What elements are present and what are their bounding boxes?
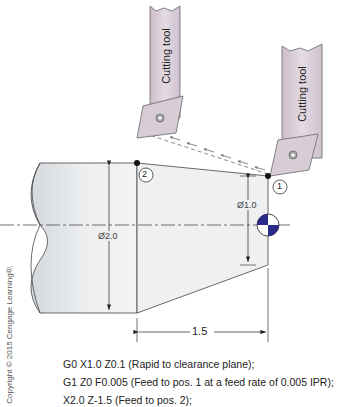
datum-origin-icon (257, 214, 279, 236)
copyright-notice: Copyright © 2015 Cengage Learning®. (5, 260, 14, 407)
position-2-point (134, 160, 140, 166)
gcode-line-1: G0 X1.0 Z0.1 (Rapid to clearance plane); (63, 358, 254, 370)
position-1-label: 1 (277, 181, 282, 191)
tool-label-2: Cutting tool (296, 64, 308, 124)
position-1-point (265, 173, 271, 179)
workpiece (31, 163, 268, 313)
position-2-label: 2 (142, 169, 147, 179)
gcode-line-3: X2.0 Z-1.5 (Feed to pos. 2); (63, 394, 192, 406)
tool-label-1: Cutting tool (160, 26, 172, 86)
gcode-line-2: G1 Z0 F0.005 (Feed to pos. 1 at a feed r… (63, 376, 334, 388)
small-diameter-label: Ø1.0 (237, 200, 257, 210)
length-label: 1.5 (192, 325, 207, 337)
large-diameter-label: Ø2.0 (98, 231, 118, 241)
